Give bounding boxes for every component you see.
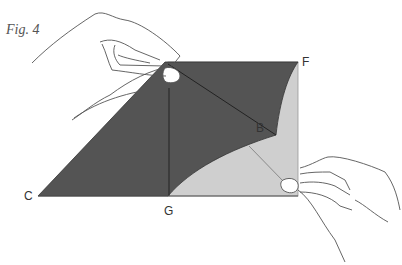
figure-caption: Fig. 4 (6, 22, 39, 38)
label-g: G (164, 204, 173, 218)
right-hand-illustration (281, 157, 400, 262)
label-b: B (256, 121, 264, 135)
origami-diagram (0, 0, 402, 265)
label-f: F (302, 55, 309, 69)
label-c: C (24, 189, 33, 203)
